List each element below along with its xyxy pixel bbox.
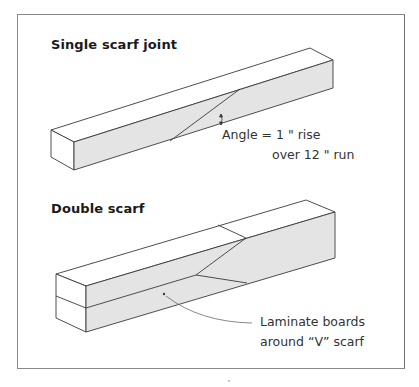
stray-mark xyxy=(228,380,230,382)
panel-title-double-scarf: Double scarf xyxy=(51,201,145,216)
angle-annotation-line1: Angle = 1 " rise xyxy=(222,126,320,144)
panel-title-single-scarf: Single scarf joint xyxy=(51,37,177,52)
laminate-annotation-line2: around “V” scarf xyxy=(260,333,364,351)
angle-annotation-line2: over 12 " run xyxy=(272,146,354,164)
laminate-annotation-line1: Laminate boards xyxy=(260,313,365,331)
